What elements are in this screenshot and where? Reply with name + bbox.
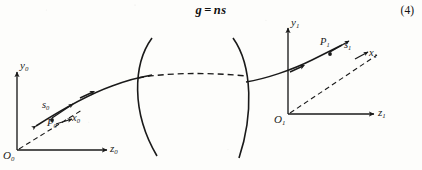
left-point-label: P0 [47, 118, 57, 129]
right-x-vector [355, 52, 368, 59]
right-origin-label: O1 [274, 114, 285, 125]
left-y-axis-label: y0 [20, 60, 28, 71]
lens-element [138, 38, 249, 158]
right-x-axis-label: x1 [369, 48, 377, 59]
right-z-axis-label: z1 [378, 107, 386, 118]
ray-curve-right [246, 45, 342, 82]
left-origin-label: O0 [3, 150, 14, 161]
left-s-vector [52, 104, 73, 118]
left-x-axis-label: x0 [72, 113, 80, 124]
left-z-axis-label: z0 [110, 143, 118, 154]
right-point-P1 [328, 52, 332, 56]
left-s-vector-label: s0 [42, 100, 49, 111]
lens-surface-right [233, 38, 249, 158]
right-y-axis-label: y1 [291, 17, 299, 28]
lens-surface-left [138, 38, 157, 156]
right-s-vector-label: s1 [344, 40, 351, 51]
right-point-label: P1 [320, 37, 330, 48]
figure-root: g=ns (4) [0, 0, 422, 170]
left-x-vector [56, 119, 72, 124]
image-space-ray [246, 45, 342, 82]
ray-curve-inside-lens [138, 74, 246, 78]
right-frame-axes [288, 28, 377, 114]
optical-ray-diagram [0, 0, 422, 170]
